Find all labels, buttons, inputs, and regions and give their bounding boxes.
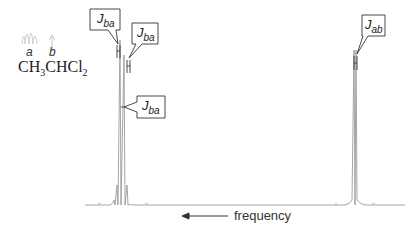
label-b: b [49, 45, 56, 59]
label-a: a [26, 45, 33, 59]
coupling-label-jba-3: Jba [142, 98, 160, 116]
coupling-label-jba-2: Jba [137, 25, 155, 43]
quartet-sketch-icon [22, 33, 37, 44]
coupling-label-jab: Jab [365, 17, 383, 35]
baseline-noise [98, 203, 375, 204]
molecule-formula: CH3CHCl2 [18, 58, 88, 78]
frequency-axis-label: frequency [234, 208, 291, 223]
frequency-arrow-icon [182, 213, 228, 219]
coupling-marker-2 [127, 60, 130, 73]
coupling-marker-1 [117, 45, 120, 58]
nmr-spectrum [0, 0, 414, 233]
coupling-label-jba-1: Jba [97, 11, 115, 29]
